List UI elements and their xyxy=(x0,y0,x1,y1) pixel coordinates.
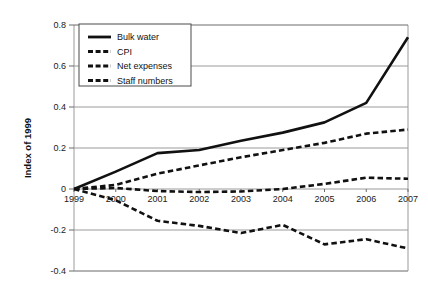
y-axis-title-text: Index of 1999 xyxy=(22,118,33,178)
x-tick-label: 2003 xyxy=(231,194,251,204)
x-tick-label: 2005 xyxy=(314,194,334,204)
x-tick-label: 2001 xyxy=(147,194,167,204)
y-tick-label: 0.6 xyxy=(53,61,66,71)
x-tick-label: 1999 xyxy=(64,194,84,204)
y-tick-label: 0 xyxy=(61,184,66,194)
y-tick-label: 0.4 xyxy=(53,102,66,112)
y-tick-label: 0.2 xyxy=(53,143,66,153)
legend-label: Net expenses xyxy=(117,61,173,71)
y-tick-label: -0.4 xyxy=(50,266,66,276)
x-tick-label: 2006 xyxy=(356,194,376,204)
x-tick-label: 2002 xyxy=(189,194,209,204)
y-tick-label: -0.2 xyxy=(50,225,66,235)
legend-label: Bulk water xyxy=(117,32,159,42)
line-chart: 0.80.60.40.20-0.2-0.4 199920002001200220… xyxy=(0,0,428,299)
x-tick-labels: 199920002001200220032004200520062007 xyxy=(64,194,418,204)
y-tick-label: 0.8 xyxy=(53,20,66,30)
legend-label: Staff numbers xyxy=(117,76,173,86)
x-tick-label: 2007 xyxy=(398,194,418,204)
x-tick-label: 2004 xyxy=(273,194,293,204)
y-axis-title: Index of 1999 xyxy=(22,118,33,178)
legend: Bulk waterCPINet expensesStaff numbers xyxy=(79,24,191,86)
chart-container: 0.80.60.40.20-0.2-0.4 199920002001200220… xyxy=(0,0,428,299)
legend-label: CPI xyxy=(117,47,132,57)
